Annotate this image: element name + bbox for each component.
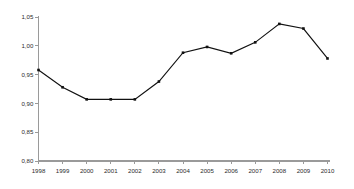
x-tick-label: 2003 xyxy=(152,167,166,174)
data-point-marker xyxy=(278,23,281,26)
chart-plot-area: 0,800,850,900,951,001,05 199819992000200… xyxy=(0,0,354,189)
y-tick-label: 0,80 xyxy=(21,157,33,164)
data-point-marker xyxy=(302,27,305,30)
data-point-marker xyxy=(61,86,64,89)
x-tick-label: 2007 xyxy=(248,167,262,174)
data-point-marker xyxy=(158,80,161,83)
x-tick-label: 2006 xyxy=(224,167,238,174)
y-tick-label: 0,85 xyxy=(21,128,33,135)
data-point-marker xyxy=(85,98,88,101)
x-tick-label: 2008 xyxy=(273,167,287,174)
x-tick-label: 2005 xyxy=(200,167,214,174)
data-point-marker xyxy=(230,52,233,55)
line-chart: 0,800,850,900,951,001,05 199819992000200… xyxy=(0,0,354,189)
data-point-marker xyxy=(254,41,257,44)
x-tick-label: 2000 xyxy=(80,167,94,174)
data-point-marker xyxy=(109,98,112,101)
y-tick-label: 1,00 xyxy=(21,42,33,49)
x-tick-label: 2009 xyxy=(297,167,311,174)
x-tick-label: 2004 xyxy=(176,167,190,174)
x-tick-label: 1998 xyxy=(32,167,46,174)
y-tick-label: 0,95 xyxy=(21,71,33,78)
x-tick-label: 2001 xyxy=(104,167,118,174)
data-point-marker xyxy=(206,46,209,49)
data-point-marker xyxy=(182,51,185,54)
data-point-marker xyxy=(37,69,40,72)
y-tick-label: 0,90 xyxy=(21,100,33,107)
y-tick-label: 1,05 xyxy=(21,13,33,20)
x-tick-label: 2002 xyxy=(128,167,142,174)
data-point-marker xyxy=(134,98,137,101)
x-tick-label: 1999 xyxy=(56,167,70,174)
x-tick-label: 2010 xyxy=(321,167,335,174)
data-point-marker xyxy=(326,57,329,60)
